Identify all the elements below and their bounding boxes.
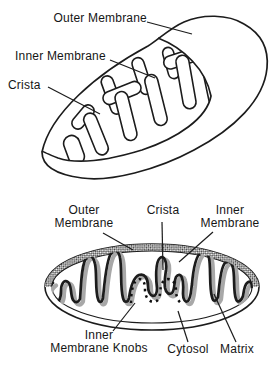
label-inner-membrane-knobs: Inner Membrane Knobs: [44, 329, 154, 355]
label-inner-membrane-3d: Inner Membrane: [15, 50, 106, 63]
top-3d-cutaway-drawing: [42, 16, 267, 179]
label-outer-membrane-3d: Outer Membrane: [52, 12, 147, 25]
label-inner-membrane-xs: Inner Membrane: [188, 204, 272, 230]
label-inner-membrane-xs-line2: Membrane: [188, 217, 272, 230]
label-crista-xs: Crista: [133, 204, 193, 217]
bottom-cross-section-drawing: [45, 222, 259, 342]
label-crista-3d: Crista: [8, 79, 41, 92]
mitochondrion-figure: Outer Membrane Inner Membrane Crista Out…: [0, 0, 275, 376]
label-outer-membrane-xs-line2: Membrane: [44, 217, 124, 230]
label-inner-membrane-knobs-line2: Membrane Knobs: [44, 342, 154, 355]
label-matrix: Matrix: [208, 343, 266, 356]
label-outer-membrane-xs: Outer Membrane: [44, 204, 124, 230]
